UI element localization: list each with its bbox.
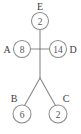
node-value-E: 2 xyxy=(38,17,43,27)
node-label-D: D xyxy=(69,44,76,55)
graph-diagram: 281462 EADBC xyxy=(0,0,81,134)
node-C: 2 xyxy=(49,105,67,123)
node-D: 14 xyxy=(50,41,67,58)
node-value-C: 2 xyxy=(56,110,61,120)
node-value-A: 8 xyxy=(20,45,25,55)
node-label-E: E xyxy=(37,1,43,12)
node-value-B: 6 xyxy=(20,110,25,120)
edge-fork-B xyxy=(25,78,41,106)
edges-group xyxy=(25,30,56,106)
graph-canvas: 281462 EADBC xyxy=(0,0,81,134)
node-value-D: 14 xyxy=(53,45,63,55)
edge-fork-C xyxy=(40,78,56,106)
node-B: 6 xyxy=(13,105,31,123)
node-E: 2 xyxy=(32,13,49,30)
node-label-A: A xyxy=(3,44,11,55)
node-A: 8 xyxy=(14,41,31,58)
node-label-B: B xyxy=(11,93,18,104)
node-label-C: C xyxy=(63,93,70,104)
